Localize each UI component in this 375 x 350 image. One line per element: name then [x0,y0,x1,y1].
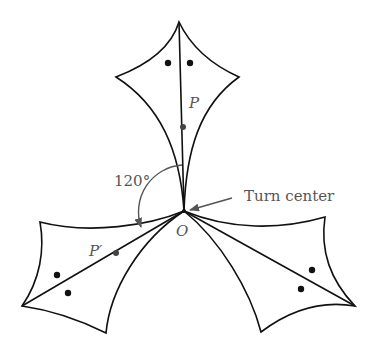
eye-dot [298,286,304,292]
label-p-prime: P′ [88,242,103,260]
rotation-diagram: P P′ O 120° Turn center [0,0,375,350]
label-angle: 120° [114,172,150,190]
center-point [182,209,186,213]
rotated-figure-120 [22,211,184,333]
label-o: O [176,222,188,240]
eye-dot [54,272,60,278]
eye-dot [165,60,171,66]
turn-center-arrow [190,198,232,210]
eye-dot [65,290,71,296]
eye-dot [187,60,193,66]
eye-dot [309,267,315,273]
label-p: P [188,94,200,112]
point-p-dot [180,124,186,130]
point-p-prime-dot [113,250,119,256]
rotated-figure-240 [184,211,355,332]
label-turn-center: Turn center [244,187,335,205]
